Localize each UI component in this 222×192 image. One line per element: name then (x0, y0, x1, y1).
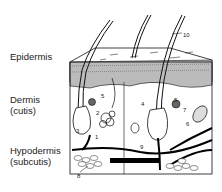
callout-7: 7 (183, 107, 186, 113)
callout-2: 2 (96, 110, 99, 116)
callout-4: 4 (141, 101, 144, 107)
callout-6: 6 (186, 121, 189, 127)
callout-5a: 5 (101, 93, 104, 99)
callout-3: 3 (76, 128, 79, 134)
callout-8: 8 (77, 173, 80, 179)
skin-cross-section-illustration (0, 0, 222, 192)
callout-5b: 5 (174, 97, 177, 103)
callout-9: 9 (140, 144, 143, 150)
callout-10: 10 (183, 32, 190, 38)
callout-1: 1 (95, 134, 98, 140)
